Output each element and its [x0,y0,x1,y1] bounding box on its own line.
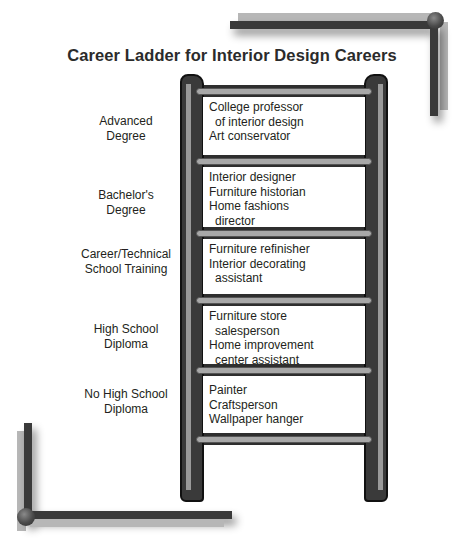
bracket-dark-bar [430,24,438,116]
diagram-title: Career Ladder for Interior Design Career… [0,46,464,65]
bracket-dark-bar [230,21,430,29]
career-item: Painter [209,383,365,398]
career-item: College professor [209,100,365,115]
career-item: director [209,214,365,229]
career-item: center assistant [209,353,365,368]
ladder-rung [196,88,372,95]
bracket-ball-joint [427,12,444,29]
career-item: Wallpaper hanger [209,412,365,427]
career-item: Furniture refinisher [209,242,365,257]
level-label-advanced-degree: Advanced Degree [70,114,182,143]
level-label-high-school: High School Diploma [70,322,182,351]
career-item: salesperson [209,324,365,339]
bracket-light-bar [440,22,448,110]
career-item: Art conservator [209,129,365,144]
rail-highlight [186,84,191,490]
career-item: Furniture store [209,309,365,324]
bracket-light-bar [30,519,224,527]
rail-highlight [378,84,383,490]
career-box-no-high-school: Painter Craftsperson Wallpaper hanger [203,376,365,433]
ladder-rung [196,436,372,443]
level-label-bachelors-degree: Bachelor's Degree [70,188,182,217]
career-item: Home improvement [209,338,365,353]
career-item: Interior decorating [209,257,365,272]
career-item: Home fashions [209,199,365,214]
career-box-bachelors-degree: Interior designer Furniture historian Ho… [203,167,365,227]
career-box-high-school: Furniture store salesperson Home improve… [203,306,365,364]
ladder-rung [196,297,372,304]
bracket-ball-joint [17,508,35,526]
career-item: assistant [209,271,365,286]
bracket-dark-bar [30,511,232,519]
career-item: Craftsperson [209,398,365,413]
ladder-rung [196,158,372,165]
career-item: Furniture historian [209,185,365,200]
career-box-advanced-degree: College professor of interior design Art… [203,97,365,155]
level-label-no-high-school: No High School Diploma [70,387,182,416]
career-item: of interior design [209,115,365,130]
ladder-rung [196,230,372,237]
ladder-rung [196,367,372,374]
career-item: Interior designer [209,170,365,185]
level-label-career-technical: Career/Technical School Training [70,247,182,276]
career-box-career-technical: Furniture refinisher Interior decorating… [203,239,365,294]
